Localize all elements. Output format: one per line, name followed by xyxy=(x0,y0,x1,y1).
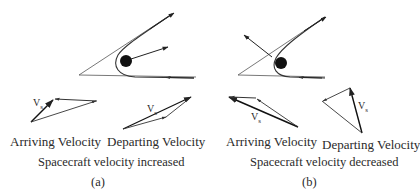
planet-velocity-arrow-b xyxy=(244,35,272,57)
arriving-velocity-label-a: Arriving Velocity xyxy=(10,134,101,150)
panel-a xyxy=(31,13,196,129)
vs-label-departing-b: Vs xyxy=(358,100,368,114)
caption-b: Spacecraft velocity decreased xyxy=(250,155,399,170)
vs-sub: s xyxy=(154,109,157,117)
resultant-arriving-b xyxy=(257,99,298,127)
panel-id-b: (b) xyxy=(302,175,317,190)
vs-sub: s xyxy=(40,103,43,111)
arriving-velocity-label-b: Arriving Velocity xyxy=(226,134,317,150)
panel-id-a: (a) xyxy=(91,175,105,190)
incoming-direction-arrow-a xyxy=(166,78,194,79)
planet-velocity-arrow-a xyxy=(131,47,168,59)
planet-b xyxy=(275,57,287,69)
vs-vector-arriving-b xyxy=(229,97,298,127)
resultant-departing-b xyxy=(322,101,362,133)
departing-velocity-triangle-b xyxy=(322,88,362,133)
departing-velocity-label-b: Departing Velocity xyxy=(322,137,420,153)
relative-velocity-arriving-a xyxy=(55,99,97,101)
outgoing-direction-arrow-b xyxy=(304,17,326,31)
caption-a: Spacecraft velocity increased xyxy=(38,155,184,170)
relative-velocity-departing-b xyxy=(323,88,350,101)
planet-a xyxy=(120,55,132,67)
vs-label-arriving-b: Vs xyxy=(251,111,261,125)
panel-b xyxy=(229,17,362,133)
vs-sub: s xyxy=(365,106,368,114)
arriving-velocity-triangle-b xyxy=(229,97,298,127)
flyby-trajectory-b xyxy=(238,17,326,78)
resultant-departing-a xyxy=(123,97,191,129)
departing-velocity-triangle-a xyxy=(123,97,191,129)
hyperbolic-path-a xyxy=(116,14,194,78)
outgoing-direction-arrow-a xyxy=(150,13,174,29)
vs-label-arriving-a: Vs xyxy=(33,97,43,111)
vs-sub: s xyxy=(258,117,261,125)
relative-velocity-arriving-b xyxy=(230,97,256,98)
vs-label-departing-a: Vs xyxy=(147,103,157,117)
flyby-trajectory-a xyxy=(79,13,196,78)
departing-velocity-label-a: Departing Velocity xyxy=(107,134,205,150)
incoming-direction-arrow-b xyxy=(299,78,322,79)
